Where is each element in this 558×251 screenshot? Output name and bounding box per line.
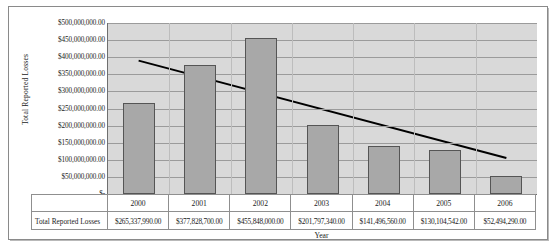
gridline (108, 23, 537, 24)
chart-frame: Total Reported Losses $-$50,000,000.00$1… (8, 6, 548, 240)
table-category-2005: 2005 (414, 195, 475, 211)
table-value-2004: $141,496,560.00 (353, 212, 414, 230)
category-separator (414, 23, 415, 194)
table-row-categories: 2000200120022003200420052006 (32, 195, 535, 212)
table-value-2006: $52,494,290.00 (475, 212, 535, 230)
gridline (108, 74, 537, 75)
gridline (108, 57, 537, 58)
gridline (108, 40, 537, 41)
category-separator (476, 23, 477, 194)
gridline (108, 109, 537, 110)
y-tick-label: $200,000,000.00 (58, 122, 105, 130)
bar-2001[interactable] (184, 65, 216, 194)
table-category-2006: 2006 (475, 195, 535, 211)
category-separator (292, 23, 293, 194)
y-tick-label: $150,000,000.00 (58, 139, 105, 147)
bar-2003[interactable] (307, 125, 339, 194)
y-axis-title: Total Reported Losses (21, 30, 30, 150)
table-category-2001: 2001 (169, 195, 230, 211)
table-category-2000: 2000 (108, 195, 169, 211)
y-tick-label: $450,000,000.00 (58, 36, 105, 44)
table-row-values: Total Reported Losses $265,337,990.00$37… (32, 212, 535, 230)
y-tick-label: $50,000,000.00 (61, 173, 105, 181)
table-corner-cell (32, 195, 108, 211)
gridline (108, 91, 537, 92)
table-value-2002: $455,848,000.00 (230, 212, 291, 230)
y-tick-label: $400,000,000.00 (58, 53, 105, 61)
bar-2004[interactable] (368, 146, 400, 194)
table-row-header: Total Reported Losses (32, 212, 108, 230)
category-separator (353, 23, 354, 194)
plot-area (107, 23, 537, 195)
table-category-2002: 2002 (230, 195, 291, 211)
table-value-2005: $130,104,542.00 (414, 212, 475, 230)
bar-2005[interactable] (429, 150, 461, 194)
y-tick-label: $350,000,000.00 (58, 70, 105, 78)
bar-2002[interactable] (245, 38, 277, 194)
y-tick-label: $300,000,000.00 (58, 87, 105, 95)
y-axis-tick-labels: $-$50,000,000.00$100,000,000.00$150,000,… (31, 17, 105, 199)
table-value-2003: $201,797,340.00 (291, 212, 352, 230)
table-value-2000: $265,337,990.00 (108, 212, 169, 230)
category-separator (169, 23, 170, 194)
table-category-2003: 2003 (291, 195, 352, 211)
x-axis-title: Year (107, 231, 536, 240)
table-value-2001: $377,828,700.00 (169, 212, 230, 230)
bar-2006[interactable] (490, 176, 522, 194)
data-table: 2000200120022003200420052006 Total Repor… (31, 194, 536, 230)
y-tick-label: $500,000,000.00 (58, 19, 105, 27)
bar-2000[interactable] (123, 103, 155, 194)
y-tick-label: $250,000,000.00 (58, 105, 105, 113)
category-separator (231, 23, 232, 194)
bar-chart: Total Reported Losses $-$50,000,000.00$1… (9, 7, 549, 241)
y-tick-label: $100,000,000.00 (58, 156, 105, 164)
table-category-2004: 2004 (353, 195, 414, 211)
